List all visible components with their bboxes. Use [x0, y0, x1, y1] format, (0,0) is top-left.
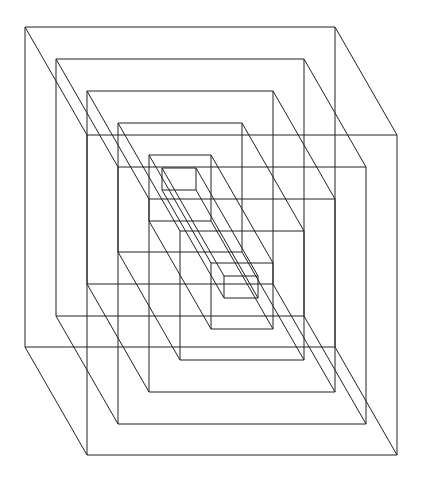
depth-edge [25, 347, 87, 455]
wireframe-figure [0, 0, 422, 478]
cube-5 [149, 155, 273, 329]
depth-edge [335, 27, 397, 135]
depth-edge [162, 190, 224, 298]
nested-cubes-diagram [0, 0, 422, 478]
cube-2 [56, 59, 366, 424]
depth-edge [196, 168, 258, 276]
